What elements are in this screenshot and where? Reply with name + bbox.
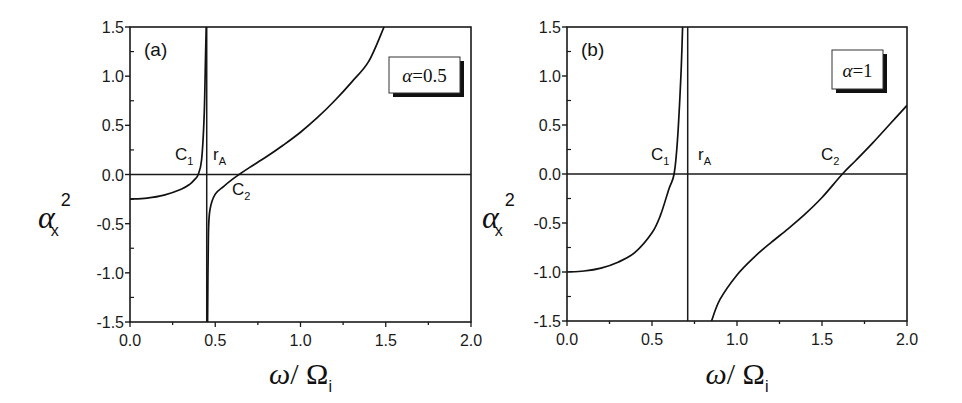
x-axis: 0.00.51.01.52.0: [556, 321, 918, 348]
y-axis-label: αx2: [38, 190, 71, 239]
y-axis: 1.51.00.50.0-0.5-1.0-1.5: [96, 19, 134, 331]
y-tick-label: 1.5: [102, 19, 124, 36]
legend-box: α=0.5: [389, 57, 464, 97]
panel-b: 1.51.00.50.0-0.5-1.0-1.50.00.51.01.52.0(…: [482, 19, 918, 395]
y-tick-label: 0.5: [102, 117, 124, 134]
annotation-c2: C2: [821, 145, 839, 167]
figure: 1.51.00.50.0-0.5-1.0-1.50.00.51.01.52.0(…: [0, 0, 962, 403]
x-tick-label: 1.5: [811, 331, 833, 348]
y-tick-label: -1.0: [96, 265, 124, 282]
x-tick-label: 0.5: [204, 332, 226, 349]
y-tick-label: 0.0: [539, 166, 561, 183]
x-axis: 0.00.51.01.52.0: [119, 322, 482, 349]
x-tick-label: 2.0: [460, 332, 482, 349]
y-tick-label: -1.0: [533, 264, 561, 281]
annotation-c1: C1: [175, 145, 193, 167]
panel-a: 1.51.00.50.0-0.5-1.0-1.50.00.51.01.52.0(…: [38, 19, 482, 395]
dispersion-curve: [567, 27, 683, 272]
annotation-ra: rA: [698, 145, 712, 167]
annotation-c1: C1: [651, 145, 669, 167]
legend-text: α=0.5: [402, 65, 446, 86]
panel-label: (b): [581, 39, 604, 60]
y-tick-label: -0.5: [533, 215, 561, 232]
y-axis-label: αx2: [482, 190, 515, 239]
x-tick-label: 2.0: [896, 331, 918, 348]
y-tick-label: 1.0: [539, 68, 561, 85]
annotation-ra: rA: [213, 145, 227, 167]
legend-box: α=1: [832, 50, 887, 93]
dispersion-curve: [712, 105, 908, 321]
dispersion-curve: [130, 27, 206, 199]
y-tick-label: 0.5: [539, 117, 561, 134]
x-tick-label: 0.0: [556, 331, 578, 348]
x-tick-label: 1.0: [726, 331, 748, 348]
panel-label: (a): [144, 39, 167, 60]
y-tick-label: 1.5: [539, 19, 561, 36]
annotation-c2: C2: [232, 180, 250, 202]
x-axis-label: ω/ Ωi: [269, 357, 332, 395]
y-tick-label: 0.0: [102, 167, 124, 184]
x-tick-label: 0.5: [641, 331, 663, 348]
y-tick-label: -1.5: [533, 313, 561, 330]
legend-text: α=1: [842, 60, 872, 81]
x-tick-label: 0.0: [119, 332, 141, 349]
x-tick-label: 1.0: [289, 332, 311, 349]
x-tick-label: 1.5: [375, 332, 397, 349]
y-tick-label: 1.0: [102, 68, 124, 85]
y-tick-label: -1.5: [96, 314, 124, 331]
y-axis: 1.51.00.50.0-0.5-1.0-1.5: [533, 19, 571, 330]
x-axis-label: ω/ Ωi: [706, 357, 769, 395]
y-tick-label: -0.5: [96, 216, 124, 233]
